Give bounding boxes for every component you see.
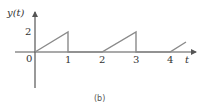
figure-caption: (b) [94,94,105,103]
signal-trace [35,32,186,52]
x-tick-4: 4 [167,54,173,65]
x-tick-2: 2 [99,54,105,65]
signal-plot: y(t) t 2 0 1 2 3 4 (b) [0,0,204,107]
y-tick-2: 2 [25,26,31,37]
y-axis-label: y(t) [6,7,25,18]
x-tick-3: 3 [133,54,139,65]
t-axis-label: t [185,54,190,65]
x-tick-1: 1 [65,54,71,65]
origin-label: 0 [26,53,32,64]
